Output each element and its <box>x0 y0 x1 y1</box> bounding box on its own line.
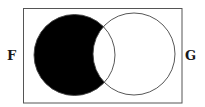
set-g-label: G <box>185 49 196 62</box>
venn-diagram <box>0 0 205 107</box>
set-f-label: F <box>7 49 16 62</box>
